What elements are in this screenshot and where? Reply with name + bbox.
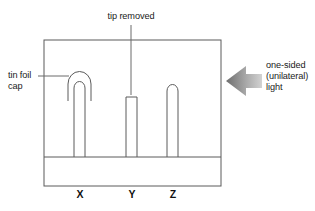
diagram-canvas [0, 0, 315, 211]
specimen-label-y: Y [116, 188, 148, 200]
tin-foil-cap [68, 72, 91, 102]
coleoptile-x-stem [74, 82, 85, 158]
specimen-label-z: Z [157, 188, 189, 200]
tin-foil-cap-label-line2: cap [8, 81, 23, 92]
coleoptile-z-stem [167, 85, 178, 157]
light-label-line2: (unilateral) [266, 71, 308, 82]
tip-removed-label: tip removed [96, 11, 166, 22]
phototropism-diagram: tip removed tin foil cap one-sided (unil… [0, 0, 315, 211]
coleoptile-y-stem [126, 97, 137, 157]
light-label-line3: light [266, 82, 282, 93]
chamber-box [44, 40, 221, 186]
specimen-label-x: X [64, 188, 96, 200]
light-arrow-icon [226, 66, 262, 96]
tin-foil-cap-label-line1: tin foil [8, 70, 31, 81]
light-label-line1: one-sided [266, 60, 305, 71]
